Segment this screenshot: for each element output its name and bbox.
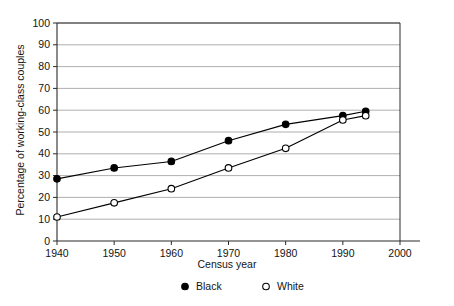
- y-tick-label: 20: [38, 191, 50, 203]
- data-point-white-7: [54, 214, 61, 221]
- data-point-black-7: [54, 176, 61, 183]
- y-tick-label: 80: [38, 60, 50, 72]
- data-point-white-7: [282, 145, 289, 152]
- y-tick-label: 60: [38, 104, 50, 116]
- data-point-black-7: [111, 165, 118, 172]
- x-tick-label: 2000: [388, 247, 412, 259]
- x-tick-label: 1940: [45, 247, 69, 259]
- y-tick-label: 50: [38, 126, 50, 138]
- y-tick-label: 90: [38, 38, 50, 50]
- legend-label-black: Black: [196, 280, 222, 292]
- data-point-white-7: [225, 165, 232, 172]
- y-tick-label: 40: [38, 147, 50, 159]
- x-axis-title: Census year: [198, 258, 257, 270]
- x-tick-label: 1950: [102, 247, 126, 259]
- data-point-white-7: [340, 117, 347, 124]
- legend-marker-white-icon: [263, 283, 270, 290]
- y-tick-label: 30: [38, 169, 50, 181]
- y-tick-label: 70: [38, 82, 50, 94]
- data-point-black-7: [168, 158, 175, 165]
- y-tick-label: 100: [32, 17, 50, 29]
- chart-figure: 0102030405060708090100 19401950196019701…: [0, 0, 454, 306]
- y-tick-label: 10: [38, 213, 50, 225]
- data-point-white-7: [168, 185, 175, 192]
- legend-label-white: White: [277, 280, 304, 292]
- x-tick-label: 1990: [331, 247, 355, 259]
- x-tick-label: 1980: [274, 247, 298, 259]
- data-point-white-7: [111, 200, 118, 207]
- y-tick-label: 0: [44, 235, 50, 247]
- legend-marker-black-icon: [182, 283, 189, 290]
- data-point-black-7: [225, 137, 232, 144]
- data-point-white-7: [362, 112, 369, 119]
- y-axis-title: Percentage of working-class couples: [14, 44, 26, 215]
- line-chart: 0102030405060708090100 19401950196019701…: [0, 0, 454, 306]
- x-tick-label: 1960: [160, 247, 184, 259]
- data-point-black-7: [282, 121, 289, 128]
